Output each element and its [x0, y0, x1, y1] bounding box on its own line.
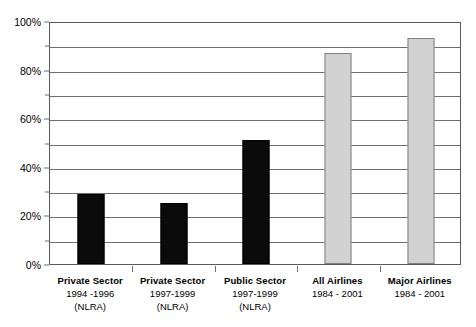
bar-slot: [215, 23, 297, 264]
bar-chart: 0%20%40%60%80%100% Private Sector1994 -1…: [0, 0, 476, 327]
x-axis-labels: Private Sector1994 -1996(NLRA)Private Se…: [49, 274, 461, 324]
x-tick: [132, 266, 133, 272]
x-axis-label-line2: 1997-1999: [214, 287, 296, 300]
bar-slot: [380, 23, 462, 264]
x-axis-label-line2: 1984 - 2001: [296, 287, 378, 300]
y-tick-label-20: 20%: [20, 211, 41, 222]
x-axis-label: Major Airlines1984 - 2001: [379, 274, 461, 300]
x-axis-label-line3: (NLRA): [131, 300, 213, 313]
x-axis-label-line1: Private Sector: [49, 274, 131, 287]
y-tick-label-80: 80%: [20, 65, 41, 76]
y-tick-label-100: 100%: [14, 17, 41, 28]
x-axis-label-line3: (NLRA): [49, 300, 131, 313]
x-axis-label-line2: 1984 - 2001: [379, 287, 461, 300]
x-axis-label: Private Sector1997-1999(NLRA): [131, 274, 213, 314]
bar-slot: [132, 23, 214, 264]
bar: [242, 140, 269, 264]
bar-slot: [50, 23, 132, 264]
y-tick-label-0: 0%: [26, 260, 41, 271]
x-axis-label: Private Sector1994 -1996(NLRA): [49, 274, 131, 314]
x-axis-label-line1: Private Sector: [131, 274, 213, 287]
y-tick-label-60: 60%: [20, 114, 41, 125]
bar: [160, 203, 187, 264]
bar-slot: [297, 23, 379, 264]
x-axis-label-line2: 1997-1999: [131, 287, 213, 300]
x-axis-label-line1: Major Airlines: [379, 274, 461, 287]
y-axis: 0%20%40%60%80%100%: [0, 0, 49, 327]
x-axis-label-line2: 1994 -1996: [49, 287, 131, 300]
x-axis-label: All Airlines1984 - 2001: [296, 274, 378, 300]
x-axis-label-line1: Public Sector: [214, 274, 296, 287]
x-tick: [215, 266, 216, 272]
plot-area: [49, 22, 461, 265]
bar: [407, 38, 434, 264]
bar: [78, 194, 105, 264]
x-axis-label-line1: All Airlines: [296, 274, 378, 287]
bar: [325, 53, 352, 264]
x-axis-label-line3: (NLRA): [214, 300, 296, 313]
x-axis-label: Public Sector1997-1999(NLRA): [214, 274, 296, 314]
y-tick-label-40: 40%: [20, 162, 41, 173]
x-tick: [297, 266, 298, 272]
x-tick: [380, 266, 381, 272]
